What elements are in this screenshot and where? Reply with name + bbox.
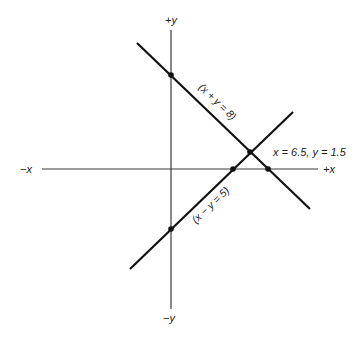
sum-line-x-intercept-point <box>265 166 271 172</box>
coordinate-diagram: +y −y +x −x (x + y = 8) (x − y = 5) x = … <box>0 0 360 338</box>
neg-x-label: −x <box>20 163 32 175</box>
pos-x-label: +x <box>323 163 335 175</box>
solution-point <box>247 149 253 155</box>
sum-line <box>137 43 310 209</box>
sum-line-y-intercept-point <box>168 72 174 78</box>
difference-line-y-intercept-point <box>168 226 174 232</box>
difference-line <box>130 112 293 269</box>
sum-line-label: (x + y = 8) <box>197 81 239 122</box>
solution-label: x = 6.5, y = 1.5 <box>272 146 347 158</box>
neg-y-label: −y <box>163 312 176 324</box>
pos-y-label: +y <box>165 14 178 26</box>
difference-line-x-intercept-point <box>230 166 236 172</box>
